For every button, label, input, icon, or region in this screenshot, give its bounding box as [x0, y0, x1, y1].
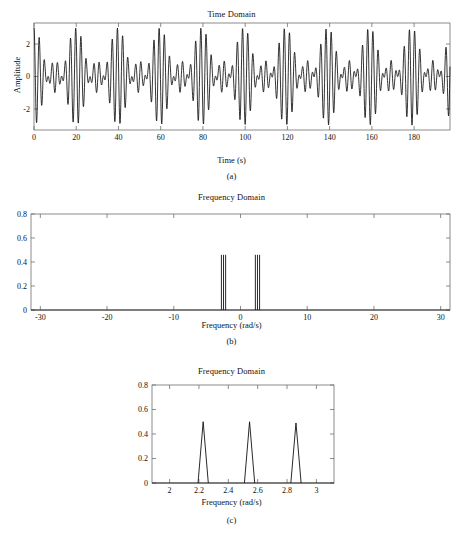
x-tick-label: 140	[324, 133, 336, 142]
x-tick-label: 0	[32, 133, 36, 142]
y-tick-label: 0.2	[138, 454, 148, 463]
x-tick-label: 2.8	[282, 486, 292, 495]
y-tick-label: 0.8	[17, 210, 27, 219]
y-tick-label: 0.6	[17, 234, 27, 243]
axis-frame	[152, 385, 334, 483]
x-tick-label: 120	[281, 133, 293, 142]
panel-b: Frequency Domain -30-20-10010203000.20.4…	[0, 188, 463, 360]
panel-a-plot: 020406080100120140160180-202	[0, 14, 463, 174]
panel-a: Time Domain Amplitude 020406080100120140…	[0, 0, 463, 190]
x-tick-label: 2.6	[253, 486, 263, 495]
y-tick-label: 2	[26, 40, 30, 49]
x-tick-label: 180	[408, 133, 420, 142]
x-tick-label: 60	[157, 133, 165, 142]
panel-c-caption: (c)	[0, 515, 463, 525]
y-tick-label: 0	[144, 479, 148, 488]
panel-a-xlabel: Time (s)	[0, 155, 463, 165]
panel-b-caption: (b)	[0, 336, 463, 346]
x-tick-label: 100	[239, 133, 251, 142]
panel-b-xlabel: Frequency (rad/s)	[0, 320, 463, 330]
x-tick-label: 3	[314, 486, 318, 495]
x-tick-label: 2.2	[194, 486, 204, 495]
x-tick-label: 20	[72, 133, 80, 142]
y-tick-label: 0.2	[17, 282, 27, 291]
y-tick-label: 0	[26, 72, 30, 81]
y-tick-label: 0.6	[138, 405, 148, 414]
figure-root: Time Domain Amplitude 020406080100120140…	[0, 0, 463, 541]
x-tick-label: 80	[199, 133, 207, 142]
panel-b-plot: -30-20-10010203000.20.40.60.8	[0, 198, 463, 333]
y-tick-label: 0.4	[138, 430, 148, 439]
axis-frame	[31, 214, 450, 310]
panel-c-title: Frequency Domain	[0, 366, 463, 376]
x-tick-label: 40	[114, 133, 122, 142]
x-tick-label: 2	[168, 486, 172, 495]
panel-a-caption: (a)	[0, 171, 463, 181]
y-tick-label: 0.8	[138, 381, 148, 390]
panel-c: Frequency Domain 22.22.42.62.8300.20.40.…	[0, 360, 463, 541]
panel-c-xlabel: Frequency (rad/s)	[0, 497, 463, 507]
y-tick-label: -2	[23, 105, 30, 114]
panel-c-plot: 22.22.42.62.8300.20.40.60.8	[0, 378, 463, 496]
y-tick-label: 0	[23, 306, 27, 315]
x-tick-label: 160	[366, 133, 378, 142]
y-tick-label: 0.4	[17, 258, 27, 267]
x-tick-label: 2.4	[223, 486, 233, 495]
